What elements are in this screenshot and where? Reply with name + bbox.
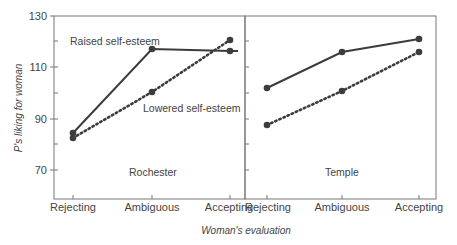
x-tick-rejecting-2: Rejecting <box>245 201 291 213</box>
label-rochester: Rochester <box>129 166 177 178</box>
x-tick-ambiguous-1: Ambiguous <box>124 201 180 213</box>
x-tick-rejecting-1: Rejecting <box>50 201 96 213</box>
x-tick-accepting-2: Accepting <box>395 201 443 213</box>
y-tick-70: 70 <box>35 164 47 176</box>
label-lowered-self-esteem: Lowered self-esteem <box>143 102 241 114</box>
x-axis-title: Woman's evaluation <box>201 225 291 236</box>
x-tick-ambiguous-2: Ambiguous <box>314 201 370 213</box>
y-tick-130: 130 <box>29 10 47 22</box>
y-axis-title: P's liking for woman <box>13 63 24 152</box>
label-raised-self-esteem: Raised self-esteem <box>70 35 160 47</box>
chart: 130 110 90 70 P's liking for woman Rejec… <box>0 0 457 245</box>
y-tick-90: 90 <box>35 113 47 125</box>
y-tick-110: 110 <box>29 61 47 73</box>
label-temple: Temple <box>325 166 359 178</box>
